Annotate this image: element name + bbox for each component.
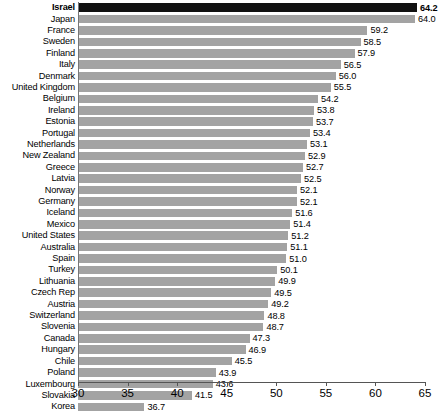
category-label: Greece [0, 163, 78, 172]
bar [78, 311, 264, 320]
bar [78, 163, 303, 172]
bar [78, 152, 305, 161]
chart-row: Germany52.1 [0, 196, 437, 207]
chart-row: Austria49.2 [0, 299, 437, 310]
value-label: 47.3 [253, 333, 270, 343]
bar [78, 231, 288, 240]
category-label: Germany [0, 197, 78, 206]
chart-row: Spain51.0 [0, 253, 437, 264]
bar-track: 64.2 [78, 2, 437, 13]
value-label: 43.9 [219, 368, 236, 378]
category-label: Luxembourg [0, 380, 78, 389]
bar-track: 57.9 [78, 48, 437, 59]
chart-row: Lithuania49.9 [0, 276, 437, 287]
category-label: Netherlands [0, 140, 78, 149]
value-label: 41.5 [195, 390, 212, 400]
value-label: 52.1 [300, 185, 317, 195]
bar-track: 49.2 [78, 299, 437, 310]
chart-row: Netherlands53.1 [0, 139, 437, 150]
value-label: 36.7 [147, 402, 164, 412]
bar [78, 254, 286, 263]
bar-track: 43.9 [78, 367, 437, 378]
x-tick [177, 382, 178, 386]
chart-row: Israel64.2 [0, 2, 437, 13]
x-axis-line [78, 382, 425, 383]
value-label: 55.5 [334, 82, 351, 92]
category-label: Denmark [0, 72, 78, 81]
y-axis-line [78, 2, 79, 382]
category-label: Finland [0, 49, 78, 58]
value-label: 49.2 [271, 299, 288, 309]
value-label: 51.4 [293, 219, 310, 229]
value-label: 59.2 [370, 25, 387, 35]
chart-row: France59.2 [0, 25, 437, 36]
value-label: 56.0 [339, 71, 356, 81]
chart-row: Canada47.3 [0, 333, 437, 344]
chart-row: Czech Rep49.5 [0, 287, 437, 298]
bar [78, 277, 275, 286]
chart-row: Finland57.9 [0, 48, 437, 59]
bar-track: 48.7 [78, 321, 437, 332]
bar-track: 52.7 [78, 162, 437, 173]
category-label: Portugal [0, 129, 78, 138]
chart-row: New Zealand52.9 [0, 150, 437, 161]
bar [78, 49, 355, 58]
value-label: 53.1 [310, 139, 327, 149]
bar [78, 209, 292, 218]
bar [78, 197, 297, 206]
bar [78, 323, 263, 332]
x-tick [227, 382, 228, 386]
category-label: Iceland [0, 208, 78, 217]
category-label: Slovenia [0, 322, 78, 331]
x-tick [276, 382, 277, 386]
chart-row: Denmark56.0 [0, 70, 437, 81]
bar [78, 334, 250, 343]
chart-row: United Kingdom55.5 [0, 82, 437, 93]
value-label: 49.5 [274, 288, 291, 298]
bar [78, 345, 246, 354]
category-label: Switzerland [0, 311, 78, 320]
bar-track: 54.2 [78, 93, 437, 104]
chart-row: Latvia52.5 [0, 173, 437, 184]
bar [78, 129, 310, 138]
bar-track: 46.9 [78, 344, 437, 355]
category-label: France [0, 26, 78, 35]
value-label: 52.5 [304, 174, 321, 184]
value-label: 58.5 [364, 37, 381, 47]
value-label: 46.9 [249, 345, 266, 355]
chart-row: Italy56.5 [0, 59, 437, 70]
value-label: 49.9 [278, 276, 295, 286]
bar [78, 288, 271, 297]
value-label: 53.4 [313, 128, 330, 138]
chart-rows: Israel64.2Japan64.0France59.2Sweden58.5F… [0, 2, 437, 413]
bar-track: 64.0 [78, 13, 437, 24]
bar [78, 38, 361, 47]
bar-track: 47.3 [78, 333, 437, 344]
value-label: 52.1 [300, 197, 317, 207]
x-tick [375, 382, 376, 386]
bar [78, 140, 307, 149]
value-label: 51.0 [289, 254, 306, 264]
bar-track: 53.4 [78, 127, 437, 138]
chart-row: Portugal53.4 [0, 127, 437, 138]
bar [78, 3, 417, 12]
bar-track: 51.4 [78, 219, 437, 230]
chart-row: Poland43.9 [0, 367, 437, 378]
bar-track: 56.0 [78, 70, 437, 81]
bar [78, 368, 216, 377]
chart-row: Chile45.5 [0, 356, 437, 367]
bar-track: 53.1 [78, 139, 437, 150]
chart-row: Mexico51.4 [0, 219, 437, 230]
bar-track: 51.1 [78, 242, 437, 253]
value-label: 53.8 [317, 105, 334, 115]
bar-track: 53.8 [78, 105, 437, 116]
bar [78, 186, 297, 195]
bar-track: 45.5 [78, 356, 437, 367]
x-tick [78, 382, 79, 386]
category-label: Canada [0, 334, 78, 343]
bar [78, 174, 301, 183]
value-label: 54.2 [321, 94, 338, 104]
category-label: Austria [0, 300, 78, 309]
bar [78, 26, 367, 35]
